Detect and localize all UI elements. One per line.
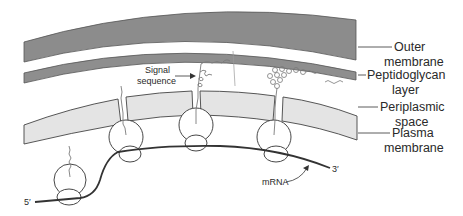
peptidoglycan-label-2: layer <box>392 83 419 97</box>
signal-sequence-label-1: Signal <box>145 65 170 75</box>
mrna-arrow <box>286 168 307 182</box>
signal-arrow-head <box>190 73 196 79</box>
plasma-membrane-label-2: membrane <box>384 141 444 155</box>
peptidoglycan-label-1: Peptidoglycan <box>367 68 446 82</box>
three-prime-label: 3′ <box>332 164 339 174</box>
plasma-membrane-label-1: Plasma <box>392 126 434 140</box>
translocation-diagram: Outer membrane Peptidoglycan layer Perip… <box>0 0 463 216</box>
signal-sequence-label-2: sequence <box>137 76 176 86</box>
mrna-label: mRNA <box>262 177 289 187</box>
outer-membrane-label-2: membrane <box>384 55 444 69</box>
ribosome-4 <box>257 120 291 162</box>
ribosome-2 <box>109 120 143 162</box>
periplasmic-label-1: Periplasmic <box>380 100 445 114</box>
outer-membrane-label-1: Outer <box>394 40 425 54</box>
five-prime-label: 5′ <box>24 197 31 207</box>
